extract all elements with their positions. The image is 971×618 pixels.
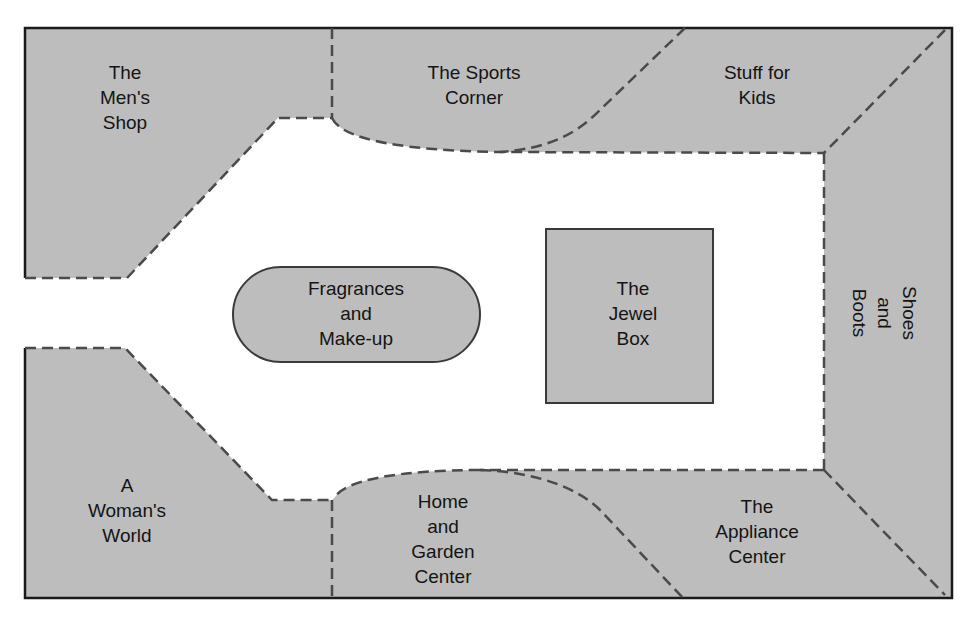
label-sports-corner: The Sports Corner bbox=[428, 60, 521, 110]
label-jewel-box: The Jewel Box bbox=[609, 276, 658, 351]
label-stuff-for-kids: Stuff for Kids bbox=[724, 60, 790, 110]
label-appliance-center: The Appliance Center bbox=[715, 494, 798, 569]
label-shoes-and-boots: Shoes and Boots bbox=[847, 286, 922, 340]
label-mens-shop: The Men's Shop bbox=[100, 60, 150, 135]
label-home-and-garden: Home and Garden Center bbox=[411, 489, 474, 589]
label-fragrances: Fragrances and Make-up bbox=[308, 276, 404, 351]
label-womans-world: A Woman's World bbox=[88, 473, 166, 548]
